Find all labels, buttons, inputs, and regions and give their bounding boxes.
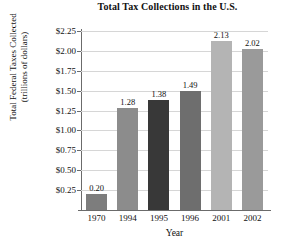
y-axis-tick-label: $1.00 [56,125,76,135]
x-axis-tick-label: 2001 [206,213,237,223]
y-axis-tickmark [77,170,81,171]
y-axis-tickmark [77,31,81,32]
bar[interactable] [86,194,107,210]
bar-slot: 2.13 [211,31,232,210]
gridline [81,150,268,151]
bar-slot: 0.20 [86,31,107,210]
bar[interactable] [148,100,169,210]
gridline [81,91,268,92]
x-axis-line [78,210,271,211]
gridline [81,130,268,131]
bar-value-label: 2.13 [214,30,229,40]
bar-value-label: 1.38 [151,89,166,99]
bar-slot: 1.38 [148,31,169,210]
bar-slot: 1.49 [180,31,201,210]
y-axis-title-line1: Total Federal Taxes Collected [8,0,19,152]
bar-slot: 1.28 [117,31,138,210]
y-axis-tickmark [77,71,81,72]
y-axis-title-line2: (trillions of dollars) [19,0,30,152]
y-axis-title: Total Federal Taxes Collected (trillions… [8,0,34,152]
bar-value-label: 1.28 [120,97,135,107]
x-axis-tick-label: 1994 [112,213,143,223]
y-axis-tick-label: $0.75 [56,145,76,155]
y-axis-tickmark [77,130,81,131]
bar-chart: Total Tax Collections in the U.S. Total … [0,0,295,246]
bar-slot: 2.02 [242,31,263,210]
gridline [81,170,268,171]
gridline [81,51,268,52]
y-axis-tick-label: $2.25 [56,26,76,36]
x-axis-tick-label: 1995 [143,213,174,223]
gridline [81,111,268,112]
y-axis-tick-label: $1.50 [56,86,76,96]
chart-title: Total Tax Collections in the U.S. [40,1,295,12]
bar-value-label: 1.49 [183,80,198,90]
y-axis-tick-label: $1.75 [56,66,76,76]
bar-value-label: 2.02 [245,38,260,48]
y-axis-tickmark [77,150,81,151]
y-axis-tickmark [77,190,81,191]
x-axis-tick-label: 1996 [175,213,206,223]
bar[interactable] [180,91,201,210]
bar[interactable] [211,41,232,210]
bar-value-label: 0.20 [89,183,104,193]
gridline [81,71,268,72]
y-axis-tickmark [77,111,81,112]
y-axis-tick-label: $2.00 [56,46,76,56]
y-axis-tickmark [77,51,81,52]
y-axis-tick-label: $0.25 [56,185,76,195]
gridline [81,31,268,32]
gridline [81,190,268,191]
y-axis-tick-label: $1.25 [56,106,76,116]
x-axis-tick-label: 1970 [81,213,112,223]
bar[interactable] [242,49,263,210]
x-axis-tick-label: 2002 [237,213,268,223]
y-axis-tickmark [77,91,81,92]
y-axis-tick-label: $0.50 [56,165,76,175]
x-axis-title: Year [81,228,268,238]
bar[interactable] [117,108,138,210]
plot-area: $0.25$0.50$0.75$1.00$1.25$1.50$1.75$2.00… [81,31,268,210]
